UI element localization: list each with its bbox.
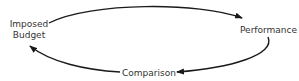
node-imposed-budget-line1: Imposed [6,19,52,30]
arrow-performance-to-comparison [177,37,269,72]
node-performance: Performance [240,25,297,36]
node-comparison: Comparison [122,68,176,79]
cycle-diagram: Imposed Budget Performance Comparison [0,0,299,81]
node-imposed-budget: Imposed Budget [6,19,52,41]
arrow-comparison-to-budget [30,46,120,72]
node-imposed-budget-line2: Budget [6,30,52,41]
arrow-budget-to-performance [49,7,242,23]
